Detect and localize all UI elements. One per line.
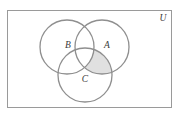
venn-diagram-figure: B A C U <box>0 0 183 119</box>
set-label-c: C <box>82 74 89 84</box>
venn-diagram-canvas: B A C U <box>0 0 183 119</box>
set-label-a: A <box>103 40 110 50</box>
set-label-b: B <box>65 40 71 50</box>
universe-label: U <box>160 13 168 23</box>
